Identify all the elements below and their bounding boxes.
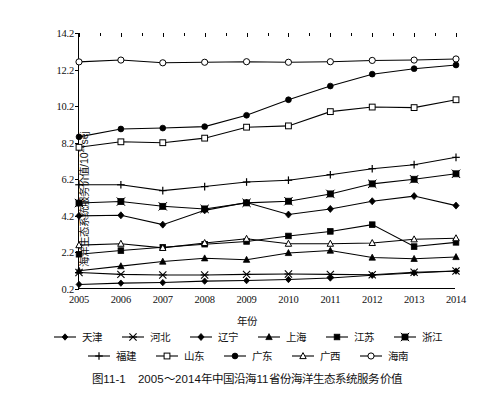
legend-label: 浙江 — [422, 329, 442, 344]
legend-label: 海南 — [388, 348, 408, 363]
x-axis-minor-tick — [351, 33, 352, 36]
data-point-marker — [76, 134, 82, 140]
data-point-marker — [244, 124, 250, 130]
x-axis-tick-mark — [163, 33, 164, 37]
legend-item-山东[interactable]: 山东 — [154, 348, 204, 363]
data-point-marker — [285, 59, 291, 65]
data-point-marker — [453, 97, 459, 103]
data-point-marker — [411, 193, 417, 200]
legend-marker-icon — [324, 331, 350, 343]
data-point-marker — [244, 112, 250, 118]
data-point-marker — [62, 333, 68, 339]
legend-item-江苏[interactable]: 江苏 — [324, 329, 374, 344]
data-point-marker — [369, 57, 375, 63]
y-axis-tick-mark — [75, 179, 79, 180]
data-point-marker — [129, 333, 137, 340]
legend-item-海南[interactable]: 海南 — [358, 348, 408, 363]
data-point-marker — [411, 66, 417, 72]
data-point-marker — [160, 125, 166, 131]
legend-label: 福建 — [116, 348, 136, 363]
legend-marker-icon — [188, 331, 214, 343]
legend-label: 广西 — [320, 348, 340, 363]
legend-marker-icon — [154, 350, 180, 362]
series-河北 — [75, 267, 460, 278]
legend-label: 辽宁 — [218, 329, 238, 344]
data-point-marker — [327, 247, 333, 253]
plot-area: 0.22.24.26.28.210.212.214.22005200620072… — [78, 33, 455, 289]
x-axis-tick-label: 2014 — [446, 294, 466, 305]
series-上海 — [76, 247, 459, 273]
data-point-marker — [452, 154, 460, 162]
data-point-marker — [117, 271, 125, 278]
data-point-marker — [118, 248, 124, 254]
data-point-marker — [368, 180, 376, 188]
data-point-marker — [369, 198, 375, 205]
legend-item-广西[interactable]: 广西 — [290, 348, 340, 363]
series-福建 — [75, 154, 460, 195]
data-point-marker — [198, 333, 204, 340]
series-广西 — [76, 235, 459, 251]
data-point-marker — [286, 233, 292, 239]
y-axis-tick-mark — [75, 252, 79, 253]
data-point-marker — [410, 175, 418, 183]
y-axis-tick-label: 10.2 — [56, 101, 74, 112]
legend-item-浙江[interactable]: 浙江 — [392, 329, 442, 344]
legend-label: 河北 — [150, 329, 170, 344]
data-point-marker — [326, 190, 334, 198]
legend-item-河北[interactable]: 河北 — [120, 329, 170, 344]
data-point-marker — [369, 222, 375, 228]
data-point-marker — [284, 197, 292, 205]
x-axis-tick-label: 2006 — [111, 294, 131, 305]
legend-item-广东[interactable]: 广东 — [222, 348, 272, 363]
series-江苏 — [76, 222, 459, 257]
data-point-marker — [453, 202, 459, 209]
data-point-marker — [118, 139, 124, 145]
legend-marker-icon — [392, 331, 418, 343]
x-axis-tick-mark — [121, 33, 122, 37]
chart-legend: 天津河北辽宁上海江苏浙江 福建山东广东广西海南 — [0, 327, 494, 365]
legend-item-天津[interactable]: 天津 — [52, 329, 102, 344]
x-axis-minor-tick — [393, 33, 394, 36]
data-point-marker — [160, 279, 166, 285]
data-point-marker — [369, 71, 375, 77]
data-point-marker — [453, 56, 459, 62]
figure-caption: 图11-12005～2014年中国沿海11省份海洋生态系统服务价值 — [0, 370, 494, 386]
series-海南 — [76, 56, 459, 66]
legend-item-辽宁[interactable]: 辽宁 — [188, 329, 238, 344]
data-point-marker — [202, 135, 208, 141]
data-point-marker — [200, 205, 208, 213]
data-point-marker — [159, 271, 167, 278]
legend-marker-icon — [290, 350, 316, 362]
data-point-marker — [242, 199, 250, 207]
data-point-marker — [243, 178, 251, 186]
x-axis-tick-mark — [247, 33, 248, 37]
data-point-marker — [328, 229, 334, 235]
data-point-marker — [202, 278, 208, 284]
data-point-marker — [117, 181, 125, 189]
data-point-marker — [286, 97, 292, 103]
x-axis-tick-label: 2013 — [404, 294, 424, 305]
x-axis-tick-label: 2009 — [236, 294, 256, 305]
x-axis-tick-label: 2011 — [320, 294, 340, 305]
y-axis-tick-mark — [75, 216, 79, 217]
data-point-marker — [159, 187, 167, 195]
legend-row-1: 天津河北辽宁上海江苏浙江 — [0, 327, 494, 346]
data-point-marker — [411, 105, 417, 111]
y-axis-tick-mark — [75, 143, 79, 144]
x-axis-tick-mark — [79, 33, 80, 37]
y-axis-tick-label: 12.2 — [56, 64, 74, 75]
legend-marker-icon — [358, 350, 384, 362]
x-axis-tick-label: 2005 — [69, 294, 89, 305]
y-axis-tick-label: 2.2 — [61, 247, 74, 258]
data-point-marker — [76, 144, 82, 150]
legend-item-福建[interactable]: 福建 — [86, 348, 136, 363]
data-point-marker — [243, 59, 249, 65]
data-point-marker — [75, 199, 83, 207]
legend-marker-icon — [120, 331, 146, 343]
data-point-marker — [453, 62, 459, 68]
x-axis-minor-tick — [184, 33, 185, 36]
legend-item-上海[interactable]: 上海 — [256, 329, 306, 344]
data-point-marker — [118, 126, 124, 132]
legend-label: 上海 — [286, 329, 306, 344]
x-axis-tick-mark — [414, 33, 415, 37]
